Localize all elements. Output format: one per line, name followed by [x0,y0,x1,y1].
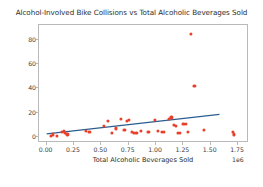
x-tick-mark [128,142,129,145]
x-axis-exponent-label: 1e6 [232,156,244,163]
x-tick-mark [46,142,47,145]
x-tick-label: 0.00 [39,146,53,153]
trend-line-svg [39,25,247,141]
plot-inner [39,25,247,141]
x-axis-label: Total Alcoholic Beverages Sold [38,156,248,164]
x-tick-label: 1.75 [230,146,244,153]
x-tick-label: 1.25 [175,146,189,153]
x-tick-label: 0.50 [93,146,107,153]
x-tick-mark [100,142,101,145]
chart-title: Alcohol-Involved Bike Collisions vs Tota… [0,8,263,17]
x-tick-label: 1.50 [203,146,217,153]
scatter-chart-figure: Alcohol-Involved Bike Collisions vs Tota… [0,0,263,187]
x-tick-mark [155,142,156,145]
x-tick-label: 0.25 [66,146,80,153]
x-tick-mark [237,142,238,145]
x-tick-mark [210,142,211,145]
x-tick-mark [73,142,74,145]
y-axis-ticks: 020406080 [0,0,36,187]
x-tick-label: 0.75 [121,146,135,153]
x-tick-label: 1.00 [148,146,162,153]
x-tick-mark [182,142,183,145]
plot-area [38,24,248,142]
